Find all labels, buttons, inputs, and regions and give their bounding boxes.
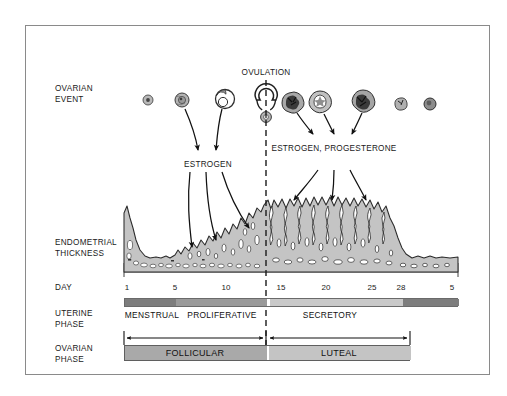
endometrium-tissue <box>124 197 458 272</box>
ovarian-event-icons <box>143 84 436 123</box>
ovarian-phase-label-follicular: FOLLICULAR <box>166 348 225 358</box>
uterine-phase-segment-next-menstrual[interactable] <box>403 299 459 306</box>
day-tick-5-next: 5 <box>450 283 454 292</box>
ovarian-phase-label-luteal: LUTEAL <box>321 348 357 358</box>
uterine-phase-segment-proliferative[interactable] <box>176 299 267 306</box>
uterine-phase-segment-menstrual[interactable] <box>125 299 176 306</box>
corpus-luteum-mature-icon <box>352 90 375 112</box>
day-tick-1: 1 <box>125 283 129 292</box>
day-tick-25: 25 <box>368 283 377 292</box>
arrows-progesterone-to-endometrium <box>294 170 366 200</box>
arrows-to-estrogen-progesterone <box>297 113 362 134</box>
uterine-phase-segment-secretory[interactable] <box>270 299 403 306</box>
secondary-follicle-icon <box>216 90 235 109</box>
diagram-artwork <box>0 0 507 396</box>
primary-follicle-icon <box>175 93 189 107</box>
corpus-albicans-icon <box>395 98 407 110</box>
uterine-phase-label-secretory: SECRETORY <box>303 310 358 320</box>
arrows-to-estrogen <box>185 109 222 150</box>
corpus-hemorrhagicum-icon <box>282 92 304 113</box>
day-tick-28: 28 <box>397 283 406 292</box>
primordial-follicle-icon <box>143 95 153 105</box>
day-tick-20: 20 <box>322 283 331 292</box>
uterine-phase-label-proliferative: PROLIFERATIVE <box>187 310 256 320</box>
day-axis-ticks <box>124 272 458 277</box>
day-tick-10: 10 <box>222 283 231 292</box>
day-tick-15: 15 <box>277 283 286 292</box>
uterine-phase-label-menstrual: MENSTRUAL <box>125 310 179 320</box>
ovarian-phase-span-arrows <box>124 331 410 345</box>
uterine-phase-bar <box>124 298 458 307</box>
corpus-albicans-late-icon <box>424 98 436 110</box>
figure-canvas: OVARIAN EVENT ENDOMETRIAL THICKNESS DAY … <box>0 0 507 396</box>
corpus-luteum-icon <box>309 91 331 113</box>
day-tick-5: 5 <box>173 283 177 292</box>
